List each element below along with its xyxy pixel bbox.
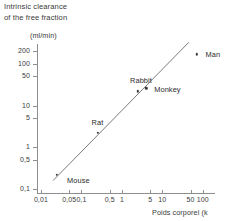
y-tick-label: 10 bbox=[4, 102, 30, 109]
y-tick bbox=[33, 76, 37, 77]
data-point-mouse bbox=[56, 173, 58, 175]
x-tick bbox=[110, 190, 111, 194]
y-tick-label: 200 bbox=[4, 47, 30, 54]
y-tick-label: 0,1 bbox=[4, 185, 30, 192]
x-tick bbox=[162, 190, 163, 194]
x-tick-label: 1 bbox=[120, 196, 124, 203]
y-tick-label: 0,5 bbox=[4, 156, 30, 163]
data-point-monkey bbox=[145, 87, 147, 89]
point-label-man: Man bbox=[206, 50, 221, 59]
y-axis-unit-label: (ml/min) bbox=[30, 31, 57, 40]
y-tick-label: 50 bbox=[4, 72, 30, 79]
x-tick bbox=[41, 190, 42, 194]
point-label-monkey: Monkey bbox=[154, 85, 180, 94]
chart-title: Intrinsic clearance of the free fraction bbox=[4, 2, 67, 23]
chart-figure: Intrinsic clearance of the free fraction… bbox=[0, 0, 240, 221]
y-tick-label: 1 bbox=[4, 143, 30, 150]
y-tick bbox=[33, 64, 37, 65]
data-point-man bbox=[195, 53, 197, 55]
point-label-rat: Rat bbox=[92, 118, 104, 127]
x-tick-label: 10 bbox=[158, 196, 166, 203]
x-tick-label: 0,01 bbox=[34, 196, 48, 203]
data-point-rabbit bbox=[137, 90, 139, 92]
x-tick bbox=[122, 190, 123, 194]
point-label-mouse: Mouse bbox=[67, 176, 90, 185]
y-axis-line bbox=[37, 44, 38, 194]
y-tick bbox=[33, 106, 37, 107]
x-tick-label: 100 bbox=[197, 196, 209, 203]
x-tick bbox=[203, 190, 204, 194]
x-tick-label: 0,5 bbox=[105, 196, 115, 203]
x-tick bbox=[81, 190, 82, 194]
y-tick bbox=[33, 147, 37, 148]
x-tick-label: 0,1 bbox=[76, 196, 86, 203]
x-axis-title: Poids corporel (k bbox=[152, 208, 208, 217]
x-tick-label: 0,05 bbox=[62, 196, 76, 203]
data-point-rat bbox=[96, 132, 98, 134]
y-tick bbox=[33, 189, 37, 190]
x-tick bbox=[191, 190, 192, 194]
x-tick bbox=[69, 190, 70, 194]
x-tick-label: 50 bbox=[187, 196, 195, 203]
y-tick-label: 100 bbox=[4, 60, 30, 67]
x-tick bbox=[150, 190, 151, 194]
x-axis-line bbox=[37, 193, 215, 194]
y-tick bbox=[33, 118, 37, 119]
y-tick-label: 5 bbox=[4, 114, 30, 121]
y-tick bbox=[33, 51, 37, 52]
point-label-rabbit: Rabbit bbox=[130, 76, 152, 85]
y-tick bbox=[33, 160, 37, 161]
x-tick-label: 5 bbox=[148, 196, 152, 203]
